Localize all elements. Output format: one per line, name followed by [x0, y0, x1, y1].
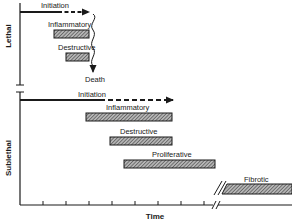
lethal-section: Lethal Initiation Inflammatory Destructi… [4, 1, 105, 85]
sublethal-inflammatory-label: Inflammatory [106, 103, 150, 112]
injury-timeline-diagram: Lethal Initiation Inflammatory Destructi… [0, 0, 292, 224]
sublethal-destructive-bar [110, 137, 172, 145]
lethal-destructive-label: Destructive [58, 43, 96, 52]
sublethal-destructive-label: Destructive [120, 127, 158, 136]
lethal-destructive-bar [66, 53, 89, 61]
lethal-inflammatory-bar [54, 30, 89, 38]
sublethal-section: Sublethal Time Initiation Inflammatory D… [4, 90, 292, 221]
fibrotic-break-mark-1 [214, 181, 222, 195]
lethal-label: Lethal [4, 24, 13, 48]
sublethal-proliferative-label: Proliferative [152, 150, 192, 159]
x-axis-label: Time [146, 212, 165, 221]
sublethal-label: Sublethal [4, 140, 13, 176]
sublethal-fibrotic-bar [222, 184, 292, 194]
sublethal-inflammatory-bar [86, 113, 172, 121]
lethal-initiation-label: Initiation [41, 1, 69, 10]
sublethal-fibrotic-label: Fibrotic [244, 175, 269, 184]
sublethal-initiation-label: Initiation [78, 90, 106, 99]
death-label: Death [85, 75, 105, 84]
lethal-inflammatory-label: Inflammatory [48, 20, 92, 29]
sublethal-proliferative-bar [124, 160, 215, 168]
